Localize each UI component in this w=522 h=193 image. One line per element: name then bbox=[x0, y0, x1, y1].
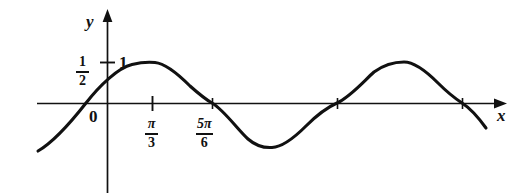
x-axis-label: x bbox=[497, 107, 506, 124]
fraction-denominator: 3 bbox=[147, 136, 156, 151]
sine-curve-figure bbox=[0, 0, 522, 193]
fraction-numerator: 5π bbox=[196, 117, 213, 132]
x-tick-label-pi-over-3: π 3 bbox=[145, 117, 158, 150]
y-tick-label-1: 1 bbox=[119, 54, 128, 71]
x-tick-label-5pi-over-6: 5π 6 bbox=[196, 117, 213, 150]
fraction-denominator: 6 bbox=[200, 136, 209, 151]
y-intercept-label-one-half: 1 2 bbox=[76, 55, 89, 88]
sine-curve-path bbox=[38, 62, 486, 151]
fraction-denominator: 2 bbox=[78, 74, 87, 89]
figure-canvas: y x 1 0 1 2 π 3 5π 6 bbox=[0, 0, 522, 193]
fraction-numerator: 1 bbox=[78, 55, 87, 70]
y-axis-arrowhead bbox=[103, 9, 113, 22]
fraction-numerator: π bbox=[147, 117, 157, 132]
y-axis-label: y bbox=[86, 13, 94, 30]
origin-label: 0 bbox=[89, 108, 98, 125]
